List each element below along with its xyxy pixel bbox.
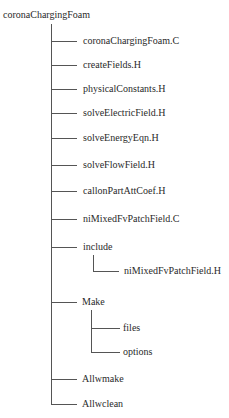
branch-line <box>51 219 77 220</box>
branch-line <box>51 302 77 303</box>
branch-line <box>51 379 77 380</box>
tree-item: solveElectricField.H <box>83 107 165 119</box>
branch-line <box>91 328 120 329</box>
tree-item: niMixedFvPatchField.H <box>124 265 221 277</box>
branch-line <box>91 352 120 353</box>
tree-item: options <box>123 346 152 358</box>
branch-line <box>51 138 77 139</box>
tree-folder-make: Make <box>82 296 105 308</box>
tree-item: Allwmake <box>82 373 124 385</box>
tree-item: Allwclean <box>82 398 123 410</box>
tree-item: solveFlowField.H <box>83 159 155 171</box>
tree-item: niMixedFvPatchField.C <box>83 213 179 225</box>
tree-item: callonPartAttCoef.H <box>83 185 165 197</box>
branch-line <box>51 165 77 166</box>
branch-line <box>51 247 77 248</box>
branch-line <box>51 404 77 405</box>
tree-folder-include: include <box>83 241 112 253</box>
tree-item: solveEnergyEqn.H <box>83 132 159 144</box>
subtree-line <box>93 255 94 271</box>
branch-line <box>51 65 77 66</box>
branch-line <box>51 89 77 90</box>
tree-item: files <box>123 322 140 334</box>
branch-line <box>51 41 77 42</box>
tree-item: coronaChargingFoam.C <box>83 35 179 47</box>
subtree-line <box>91 310 92 352</box>
branch-line <box>51 113 77 114</box>
branch-line <box>93 271 119 272</box>
main-trunk-line <box>51 24 52 405</box>
tree-item: createFields.H <box>83 59 141 71</box>
branch-line <box>51 191 77 192</box>
tree-root: coronaChargingFoam <box>3 9 90 21</box>
tree-item: physicalConstants.H <box>83 83 166 95</box>
